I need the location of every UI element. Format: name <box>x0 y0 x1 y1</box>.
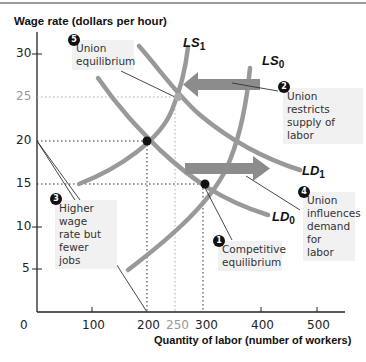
x-tick-400: 400 <box>251 318 274 332</box>
y-tick-15: 15 <box>16 176 31 190</box>
note-union-restricts-supply: Union restrictssupply of labor <box>283 88 363 144</box>
x-axis-ticks <box>92 307 317 312</box>
badge-1: 1 <box>213 235 225 247</box>
competitive-equilibrium-point <box>201 180 210 189</box>
leader-lines <box>37 71 300 312</box>
ld0-label: LD0 <box>272 209 295 226</box>
badge-2: 2 <box>278 81 290 93</box>
x-tick-500: 500 <box>307 318 330 332</box>
note-union-influences-demand: Unioninfluencesdemandfor labor <box>303 192 355 261</box>
x-axis-title: Quantity of labor (number of workers) <box>154 334 351 346</box>
y-tick-20: 20 <box>16 133 31 147</box>
union-equilibrium-point <box>174 93 182 101</box>
union-wage-point <box>143 137 152 146</box>
x-tick-200: 200 <box>137 318 160 332</box>
y-axis-title: Wage rate (dollars per hour) <box>14 15 167 27</box>
ls1-label: LS1 <box>183 35 205 52</box>
labor-market-diagram <box>0 0 366 362</box>
demand-shift-arrow <box>185 156 270 181</box>
x-tick-300: 300 <box>195 318 218 332</box>
ld1-label: LD1 <box>302 163 325 180</box>
badge-5: 5 <box>68 34 80 46</box>
note-union-equilibrium: Unionequilibrium <box>72 40 134 70</box>
y-tick-10: 10 <box>16 219 31 233</box>
badge-3: 3 <box>50 193 62 205</box>
y-tick-30: 30 <box>16 46 31 60</box>
origin-label: 0 <box>20 318 28 332</box>
y-tick-25: 25 <box>16 89 31 103</box>
note-competitive-equilibrium: Competitiveequilibrium <box>218 241 282 271</box>
x-tick-250: 250 <box>166 318 189 332</box>
ls0-label: LS0 <box>262 53 284 70</box>
note-higher-wage-fewer-jobs: Higher wagerate butfewer jobs <box>55 200 117 269</box>
badge-4: 4 <box>298 186 310 198</box>
x-tick-100: 100 <box>82 318 105 332</box>
y-tick-5: 5 <box>22 261 30 275</box>
